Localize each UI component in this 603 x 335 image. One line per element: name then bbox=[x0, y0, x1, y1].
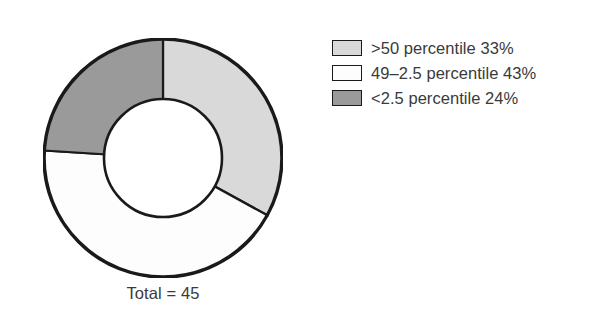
legend-item: 49–2.5 percentile 43% bbox=[332, 61, 594, 85]
legend-swatch-above-50-percentile bbox=[332, 40, 362, 56]
donut-inner-hole bbox=[104, 99, 222, 217]
donut-chart-plot-area bbox=[43, 38, 283, 278]
legend-swatch-49-to-2point5-percentile bbox=[332, 65, 362, 81]
donut-chart-figure: Total = 45 >50 percentile 33% 49–2.5 per… bbox=[0, 0, 603, 335]
legend-item-label: 49–2.5 percentile 43% bbox=[371, 63, 536, 83]
donut-total-caption: Total = 45 bbox=[43, 284, 283, 303]
legend-item: <2.5 percentile 24% bbox=[332, 86, 594, 110]
legend-item-label: >50 percentile 33% bbox=[371, 38, 514, 58]
legend-swatch-below-2point5-percentile bbox=[332, 90, 362, 106]
donut-chart-svg bbox=[43, 38, 283, 278]
chart-legend: >50 percentile 33% 49–2.5 percentile 43%… bbox=[332, 36, 594, 111]
legend-item: >50 percentile 33% bbox=[332, 36, 594, 60]
legend-item-label: <2.5 percentile 24% bbox=[371, 88, 518, 108]
